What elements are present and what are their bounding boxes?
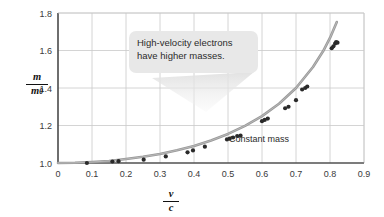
x-tick-label: 0.4 [188,169,201,179]
x-tick-label: 0.9 [358,169,371,179]
constant-mass-label: Constant mass [229,134,290,144]
x-tick-label: 0.5 [222,169,235,179]
y-axis-label: m m0 [26,72,48,96]
y-tick-label: 1.8 [39,9,52,19]
x-tick-label: 0.2 [120,169,133,179]
callout-line-2: have higher masses. [137,50,225,61]
y-tick-label: 1.2 [39,121,52,131]
y-tick-label: 1.6 [39,46,52,56]
chart-figure: 00.10.20.30.40.50.60.70.80.91.01.21.41.6… [0,0,384,217]
x-axis-label: v c [163,189,179,213]
x-tick-label: 0.6 [256,169,269,179]
x-axis-numerator: v [163,189,179,200]
relativistic-mass-plot: 00.10.20.30.40.50.60.70.80.91.01.21.41.6… [0,0,384,217]
x-tick-label: 0.1 [86,169,99,179]
y-axis-denominator: m0 [26,86,48,97]
x-tick-label: 0.7 [290,169,303,179]
y-tick-label: 1.0 [39,159,52,169]
x-tick-label: 0.3 [154,169,167,179]
y-axis-numerator: m [26,72,48,83]
callout-line-1: High-velocity electrons [137,37,233,48]
x-tick-label: 0.8 [324,169,337,179]
x-axis-denominator: c [163,203,179,214]
x-tick-label: 0 [55,169,60,179]
